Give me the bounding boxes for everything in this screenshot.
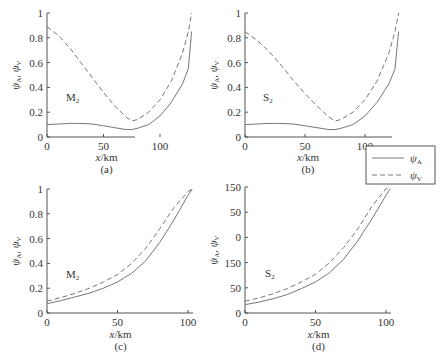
panel-label: (c) — [114, 340, 127, 353]
series-psi-v-line — [47, 189, 192, 301]
y-tick-label: 0.6 — [29, 233, 43, 245]
y-tick-label: 0 — [236, 131, 242, 143]
chart-panel-d: 050100050150050150ψA, ψVx/km(d)S2 — [207, 181, 395, 353]
panel-label: (d) — [312, 340, 325, 353]
x-tick-label: 100 — [378, 316, 395, 328]
y-tick-label: 0.4 — [29, 81, 43, 93]
x-axis-label: x/km — [94, 151, 117, 163]
y-tick-label: 0.4 — [227, 81, 241, 93]
x-axis-label: x/km — [306, 328, 329, 340]
y-tick-label: 0.2 — [227, 106, 241, 118]
axes — [47, 13, 135, 137]
y-axis-label: ψA, ψV — [207, 60, 221, 89]
y-tick-label: 150 — [225, 257, 242, 269]
legend-box — [366, 146, 435, 184]
x-tick-label: 0 — [242, 316, 248, 328]
y-tick-label: 0 — [38, 131, 44, 143]
constituent-annotation: S2 — [265, 267, 275, 281]
series-psi-a-line — [245, 32, 399, 130]
panel-label: (b) — [302, 163, 315, 176]
x-axis-label: x/km — [108, 328, 131, 340]
y-tick-label: 0 — [38, 307, 44, 319]
y-tick-label: 50 — [230, 206, 242, 218]
y-tick-label: 50 — [230, 282, 242, 294]
x-tick-label: 0 — [242, 140, 248, 152]
y-tick-label: 0.2 — [29, 282, 43, 294]
y-tick-label: 1 — [38, 183, 44, 195]
y-tick-label: 0.6 — [29, 57, 43, 69]
x-tick-label: 100 — [152, 140, 169, 152]
y-tick-label: 1 — [38, 7, 44, 19]
x-axis-label: x/km — [296, 151, 319, 163]
axes — [245, 187, 391, 313]
series-psi-a-line — [47, 32, 192, 130]
figure: 05010000.20.40.60.81ψA, ψVx/km(a)M205010… — [0, 0, 440, 362]
axes — [47, 189, 193, 313]
chart-panel-a: 05010000.20.40.60.81ψA, ψVx/km(a)M2 — [9, 7, 192, 176]
chart-panel-c: 05010000.20.40.60.81ψA, ψVx/km(c)M2 — [9, 183, 197, 353]
axes — [245, 13, 392, 137]
y-tick-label: 0.8 — [227, 32, 241, 44]
y-tick-label: 0.4 — [29, 257, 43, 269]
legend: ψAψV — [366, 146, 435, 184]
y-axis-label: ψA, ψV — [207, 235, 221, 264]
y-tick-label: 150 — [225, 181, 242, 193]
panel-label: (a) — [100, 163, 113, 176]
y-axis-label: ψA, ψV — [9, 60, 23, 89]
y-axis-label: ψA, ψV — [9, 236, 23, 265]
x-tick-label: 50 — [112, 316, 124, 328]
y-tick-label: 0.8 — [29, 208, 43, 220]
constituent-annotation: M2 — [66, 91, 80, 105]
x-tick-label: 0 — [44, 140, 50, 152]
series-psi-a-line — [245, 189, 390, 305]
series-psi-v-line — [245, 13, 399, 121]
x-tick-label: 50 — [310, 316, 322, 328]
constituent-annotation: M2 — [66, 268, 80, 282]
series-psi-a-line — [47, 189, 192, 304]
y-tick-label: 0 — [236, 231, 242, 243]
constituent-annotation: S2 — [263, 91, 273, 105]
y-tick-label: 0.8 — [29, 32, 43, 44]
y-tick-label: 0 — [236, 307, 242, 319]
y-tick-label: 1 — [236, 7, 242, 19]
y-tick-label: 0.2 — [29, 106, 43, 118]
series-psi-v-line — [245, 187, 390, 301]
y-tick-label: 0.6 — [227, 57, 241, 69]
x-tick-label: 0 — [44, 316, 50, 328]
x-tick-label: 100 — [180, 316, 197, 328]
